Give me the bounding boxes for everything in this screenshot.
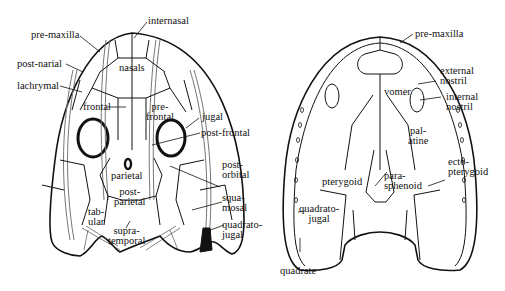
label-vomer: vomer — [384, 87, 411, 97]
label-tabular: tab- ular — [88, 207, 104, 227]
label-lachrymal: lachrymal — [17, 81, 59, 91]
label-para-sphenoid: para- sphenoid — [384, 171, 422, 191]
label-pre-maxilla: pre-maxilla — [31, 30, 79, 40]
skull-diagrams — [0, 0, 505, 291]
label-internal-nostril: internal nostril — [446, 92, 478, 112]
label-parietal: parietal — [111, 171, 142, 181]
label-post-parietal: post- parietal — [114, 187, 145, 207]
label-external-nostril: external nostril — [440, 66, 474, 86]
label-pterygoid: pterygoid — [322, 177, 362, 187]
label-squamosal: squa- mosal — [222, 193, 247, 213]
label-quadrato-jugal-palatal: quadrato- jugal — [299, 204, 339, 224]
label-palatine: pal- atine — [408, 126, 428, 146]
label-ecto-pterygoid: ecto- pterygoid — [448, 157, 488, 177]
label-supra-temporal: supra- temporal — [108, 226, 145, 246]
label-nasals: nasals — [119, 63, 145, 73]
label-quadrato-jugal-dorsal: quadrato- jugal — [222, 220, 262, 240]
label-jugal: jugal — [202, 112, 223, 122]
label-post-narial: post-narial — [17, 59, 62, 69]
label-internasal: internasal — [148, 16, 189, 26]
label-pre-frontal: pre- frontal — [146, 102, 174, 122]
label-quadrate: quadrate — [280, 266, 316, 276]
label-post-frontal: post-frontal — [201, 128, 250, 138]
label-pre-maxilla-palatal: pre-maxilla — [415, 29, 463, 39]
label-frontal: frontal — [83, 102, 111, 112]
label-post-orbital: post- orbital — [222, 160, 249, 180]
